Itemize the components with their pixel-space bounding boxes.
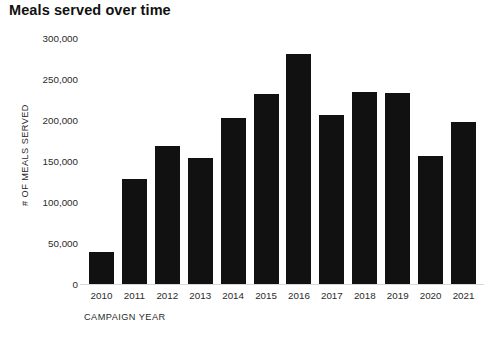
x-tick-label: 2015 [255, 290, 277, 301]
x-tick-label: 2016 [288, 290, 310, 301]
x-tick-label: 2012 [156, 290, 178, 301]
x-tick-label: 2010 [91, 290, 113, 301]
bar-2018 [352, 92, 377, 284]
x-tick-label: 2021 [453, 290, 475, 301]
x-tick-label: 2018 [354, 290, 376, 301]
x-axis-title: CAMPAIGN YEAR [84, 312, 166, 322]
bar-2020 [418, 156, 443, 284]
bar-2012 [155, 146, 180, 284]
bar-2015 [254, 94, 279, 284]
plot-area: 050,000100,000150,000200,000250,000300,0… [0, 0, 502, 340]
x-tick-label: 2020 [420, 290, 442, 301]
x-tick-label: 2014 [222, 290, 244, 301]
x-tick-label: 2011 [124, 290, 145, 301]
bar-2014 [221, 118, 246, 284]
bar-2017 [319, 115, 344, 284]
bar-2013 [188, 158, 213, 284]
x-tick-label: 2013 [189, 290, 211, 301]
bar-2010 [89, 252, 114, 284]
x-tick-label: 2019 [387, 290, 409, 301]
bars-layer: 2010201120122013201420152016201720182019… [0, 0, 502, 340]
bar-2021 [451, 122, 476, 284]
bar-chart: Meals served over time # OF MEALS SERVED… [0, 0, 502, 340]
x-tick-label: 2017 [321, 290, 343, 301]
bar-2016 [286, 54, 311, 284]
bar-2011 [122, 179, 147, 284]
bar-2019 [385, 93, 410, 284]
